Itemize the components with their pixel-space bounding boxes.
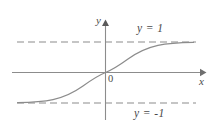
- graph-figure: y x 0 y = 1 y = -1: [0, 0, 211, 129]
- plot-canvas: [0, 0, 211, 129]
- x-axis-label: x: [199, 76, 204, 87]
- y-axis-label: y: [96, 15, 101, 26]
- y-axis-arrowhead-icon: [102, 20, 109, 27]
- origin-label: 0: [108, 74, 113, 85]
- asymptote-label-lower: y = -1: [134, 108, 165, 120]
- asymptote-label-upper: y = 1: [137, 23, 163, 35]
